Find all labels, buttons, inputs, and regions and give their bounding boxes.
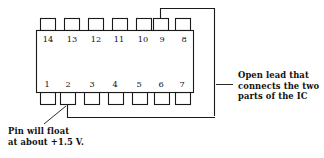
pin-label-6: 6 [158, 79, 163, 89]
pin-tab-13 [65, 19, 80, 31]
pin-tab-1 [41, 93, 56, 105]
pin-label-1: 1 [44, 79, 49, 89]
pin-label-2: 2 [65, 79, 70, 89]
pin-tab-10 [137, 19, 152, 31]
annotation-pin-float-line-1: Pin will float [8, 126, 84, 137]
bottom-annotation-leader [44, 106, 66, 124]
pin-tab-2 [61, 93, 76, 105]
pin-label-14: 14 [43, 34, 53, 44]
pin-label-9: 9 [159, 34, 164, 44]
pin-tab-7 [176, 93, 191, 105]
pin-label-4: 4 [112, 79, 117, 89]
pin-tab-9 [154, 19, 169, 31]
pin-label-8: 8 [181, 34, 186, 44]
pin-label-12: 12 [91, 34, 101, 44]
bottom-pin-numbers: 1 2 3 4 5 6 7 [44, 79, 184, 89]
open-lead-bottom-wire [68, 105, 215, 118]
annotation-pin-float: Pin will float at about +1.5 V. [8, 126, 84, 147]
pin-label-5: 5 [136, 79, 141, 89]
pin-label-11: 11 [114, 34, 124, 44]
pin-tab-12 [89, 19, 104, 31]
pin-tab-5 [133, 93, 148, 105]
ic-diagram-figure: 14 13 12 11 10 9 8 1 2 3 4 5 6 7 Open le… [0, 0, 324, 158]
annotation-open-lead-line-2: connects the two [238, 81, 319, 92]
pin-label-13: 13 [67, 34, 77, 44]
pin-tab-8 [176, 19, 191, 31]
pin-tab-6 [155, 93, 170, 105]
bottom-pin-tabs [41, 93, 191, 105]
pin-label-10: 10 [138, 34, 148, 44]
pin-tab-14 [41, 19, 56, 31]
pin-label-7: 7 [179, 79, 184, 89]
annotation-open-lead: Open lead that connects the two parts of… [238, 70, 319, 102]
pin-label-3: 3 [89, 79, 94, 89]
annotation-open-lead-line-3: parts of the IC [238, 91, 319, 102]
annotation-pin-float-line-2: at about +1.5 V. [8, 137, 84, 148]
pin-tab-11 [113, 19, 128, 31]
annotation-open-lead-line-1: Open lead that [238, 70, 319, 81]
top-pin-tabs [41, 19, 191, 31]
pin-tab-3 [85, 93, 100, 105]
pin-tab-4 [109, 93, 124, 105]
